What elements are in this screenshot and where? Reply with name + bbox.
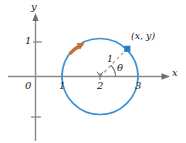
x-tick-label-3: 3 <box>135 81 141 91</box>
point-marker <box>124 46 130 52</box>
x-tick-label-2: 2 <box>97 81 103 91</box>
unit-circle-figure: y x 0 1 1 2 3 (x, y) 1 θ <box>0 0 186 143</box>
radius-length-label: 1 <box>107 54 113 64</box>
y-tick-label-1: 1 <box>25 36 31 46</box>
x-tick-label-1: 1 <box>59 81 65 91</box>
angle-theta-label: θ <box>117 63 123 73</box>
origin-label: 0 <box>25 81 31 91</box>
direction-arc <box>71 46 80 53</box>
x-axis-label: x <box>172 68 178 78</box>
y-axis-label: y <box>31 2 37 12</box>
angle-arc <box>111 66 116 77</box>
y-axis-arrowhead <box>32 13 38 21</box>
x-axis-arrowhead <box>162 73 171 79</box>
point-coordinate-label: (x, y) <box>131 31 155 41</box>
figure-canvas <box>0 0 186 143</box>
